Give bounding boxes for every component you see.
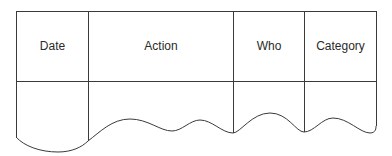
torn-bottom-edge (16, 113, 376, 152)
column-header-who: Who (234, 11, 304, 81)
column-header-action: Action (89, 11, 233, 81)
log-table-diagram: Date Action Who Category (0, 0, 392, 156)
column-header-category: Category (305, 11, 376, 81)
column-header-date: Date (17, 11, 88, 81)
